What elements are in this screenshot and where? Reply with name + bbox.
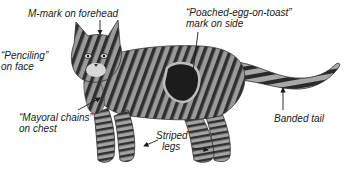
cat-front-leg-back [114,110,135,162]
label-striped-legs-line2: legs [156,141,188,152]
label-striped-legs-line1: Striped [156,130,188,141]
label-m-mark-line1: M-mark on forehead [28,8,118,19]
label-penciling-line1: “Penciling” [1,50,48,61]
label-poached-egg: “Poached-egg-on-toast” mark on side [186,7,292,29]
label-penciling-line2: on face [1,61,48,72]
label-mayoral-chains-line2: on chest [19,123,93,134]
label-penciling: “Penciling” on face [1,50,48,72]
label-mayoral-chains-line1: “Mayoral chains” [19,112,93,123]
cat-tail [238,62,340,89]
tabby-cat-diagram: M-mark on forehead “Penciling” on face “… [0,0,346,169]
label-mayoral-chains: “Mayoral chains” on chest [19,112,93,134]
poached-egg-mark [164,63,199,102]
label-banded-tail-line1: Banded tail [274,113,324,124]
label-striped-legs: Striped legs [156,130,188,152]
cat-front-leg-front [94,108,115,162]
label-poached-egg-line1: “Poached-egg-on-toast” [186,7,292,18]
label-poached-egg-line2: mark on side [186,18,292,29]
label-banded-tail: Banded tail [274,113,324,124]
label-m-mark: M-mark on forehead [28,8,118,19]
